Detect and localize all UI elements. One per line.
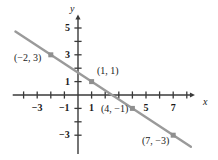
coordinate-plane-chart: x y −3−1157531−3(−2, 3)(1, 1)(4, −1)(7, … [0, 0, 218, 160]
x-tick-label: 7 [171, 103, 176, 113]
plotted-line [15, 32, 190, 147]
y-axis-label: y [70, 4, 74, 14]
data-point-marker [171, 133, 176, 138]
x-tick-label: 1 [89, 103, 94, 113]
data-point-marker [130, 106, 135, 111]
point-annotation-label: (−2, 3) [14, 53, 41, 63]
data-point-marker [48, 52, 53, 57]
point-annotation-label: (1, 1) [97, 66, 119, 76]
y-axis-arrow-icon [75, 15, 80, 20]
y-tick-label: 3 [65, 50, 70, 60]
chart-canvas [0, 0, 218, 160]
x-tick-label: −3 [32, 103, 43, 113]
y-tick-label: −3 [59, 130, 70, 140]
x-axis-label: x [203, 97, 207, 107]
x-tick-label: 5 [144, 103, 149, 113]
y-tick-label: 5 [65, 23, 70, 33]
y-tick-label: 1 [65, 77, 70, 87]
x-tick-label: −1 [59, 103, 70, 113]
data-point-marker [89, 79, 94, 84]
point-annotation-label: (4, −1) [101, 104, 128, 114]
point-annotation-label: (7, −3) [142, 136, 169, 146]
x-axis-arrow-icon [190, 92, 195, 97]
